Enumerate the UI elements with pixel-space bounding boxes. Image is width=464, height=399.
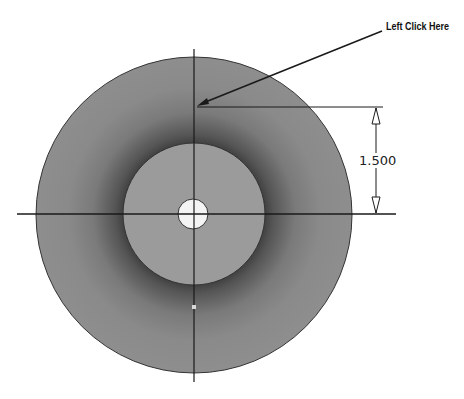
drawing-canvas	[0, 0, 464, 399]
callout-label: Left Click Here	[386, 21, 449, 32]
dimension-arrow-top-icon	[372, 108, 380, 124]
point-marker[interactable]	[192, 305, 196, 309]
dimension-arrow-bottom-icon	[372, 197, 380, 213]
dimension-value[interactable]: 1.500	[358, 153, 397, 168]
